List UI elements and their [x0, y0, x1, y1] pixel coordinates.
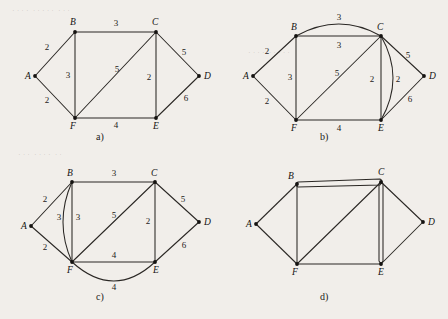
vertex-label-E: E [152, 121, 159, 131]
node-dot-B [294, 34, 298, 38]
weight-C-F: 5 [335, 68, 340, 78]
node-dot-E [379, 262, 383, 266]
vertex-label-C: C [151, 168, 158, 178]
panel-d: A B C D E F [224, 160, 448, 319]
node-dot-E [154, 116, 158, 120]
weight-C-D: 5 [181, 194, 186, 204]
weight-A-B: 2 [45, 42, 50, 52]
weight-A-F: 2 [45, 95, 50, 105]
panel-b-graph: 2 2 3 3 3 5 5 2 2 6 4 A B C [224, 0, 448, 159]
edge-C-F [297, 182, 381, 264]
edge-D-E [155, 222, 199, 262]
node-dot-B [70, 180, 74, 184]
weight-F-E: 4 [112, 250, 117, 260]
weight-D-E: 6 [184, 93, 189, 103]
weight-B-F-arc: 3 [57, 212, 62, 222]
node-dot-F [294, 118, 298, 122]
weight-B-C: 3 [114, 18, 119, 28]
weight-D-E: 6 [182, 240, 187, 250]
panel-d-edges [256, 179, 423, 264]
edge-D-E [156, 76, 199, 118]
edge-C-E-double-loop [379, 182, 383, 263]
weight-B-F: 3 [76, 212, 81, 222]
node-dot-C [154, 30, 158, 34]
panel-a-graph: 2 2 3 3 5 5 2 6 4 A B C D E [0, 0, 224, 159]
weight-C-E-arc: 2 [396, 74, 401, 84]
edge-C-F [75, 32, 156, 118]
edge-C-D [381, 36, 424, 76]
weight-B-C: 3 [112, 168, 117, 178]
figure-graph-variants: · · · · · · · · · · · · · · · · · · · · … [0, 0, 448, 319]
edge-D-E [381, 76, 424, 120]
node-dot-D [197, 220, 201, 224]
panel-a: 2 2 3 3 5 5 2 6 4 A B C D E [0, 0, 224, 159]
weight-C-E: 2 [146, 216, 151, 226]
weight-A-B: 2 [265, 46, 270, 56]
edge-A-F [253, 76, 296, 120]
edge-A-F [35, 76, 75, 118]
weight-A-F: 2 [43, 242, 48, 252]
panel-b-weights: 2 2 3 3 3 5 5 2 2 6 4 [265, 12, 413, 133]
node-dot-D [197, 74, 201, 78]
node-dot-A [33, 74, 37, 78]
vertex-label-D: D [428, 71, 436, 81]
vertex-label-A: A [20, 221, 27, 231]
weight-D-E: 6 [408, 94, 413, 104]
panel-c: 2 2 3 3 3 5 5 2 6 4 4 A B C [0, 160, 224, 319]
vertex-label-C: C [378, 167, 385, 177]
edge-A-B [253, 36, 296, 76]
node-dot-C [379, 180, 383, 184]
node-dot-A [29, 224, 33, 228]
node-dot-A [251, 74, 255, 78]
panel-a-edges [35, 32, 199, 118]
vertex-label-B: B [67, 168, 73, 178]
edge-C-D [155, 182, 199, 222]
vertex-label-A: A [242, 71, 249, 81]
node-dot-A [254, 222, 258, 226]
weight-C-F: 5 [112, 210, 117, 220]
vertex-label-C: C [377, 22, 384, 32]
weight-C-E: 2 [370, 74, 375, 84]
panel-caption-b: b) [320, 131, 328, 142]
node-dot-C [153, 180, 157, 184]
vertex-label-E: E [152, 265, 159, 275]
node-dot-D [422, 74, 426, 78]
edge-F-E-arc [72, 262, 155, 281]
weight-A-B: 2 [43, 194, 48, 204]
edge-C-D [381, 182, 423, 222]
node-dot-E [153, 260, 157, 264]
vertex-label-D: D [427, 217, 435, 227]
node-dot-B [73, 30, 77, 34]
weight-B-C: 3 [337, 40, 342, 50]
edge-B-C-arc [296, 24, 381, 36]
weight-F-E: 4 [114, 120, 119, 130]
node-dot-E [379, 118, 383, 122]
node-dot-F [70, 260, 74, 264]
vertex-label-E: E [377, 123, 384, 133]
node-dot-F [295, 262, 299, 266]
weight-C-D: 5 [182, 47, 187, 57]
edge-A-B [256, 184, 297, 224]
vertex-label-B: B [288, 171, 294, 181]
vertex-label-A: A [245, 219, 252, 229]
edge-B-F-arc [63, 182, 72, 262]
panel-caption-c: c) [96, 291, 104, 302]
panel-caption-a: a) [96, 131, 104, 142]
edge-D-E [381, 222, 423, 264]
weight-F-E: 4 [337, 123, 342, 133]
edge-A-F [256, 224, 297, 264]
panel-c-edges [31, 182, 199, 281]
vertex-label-E: E [377, 267, 384, 277]
edge-A-B [31, 182, 72, 226]
panel-b: 2 2 3 3 3 5 5 2 2 6 4 A B C [224, 0, 448, 159]
node-dot-F [73, 116, 77, 120]
edge-C-D [156, 32, 199, 76]
edge-B-C-double-loop [296, 179, 382, 187]
vertex-label-B: B [291, 22, 297, 32]
vertex-label-F: F [291, 267, 298, 277]
node-dot-B [295, 182, 299, 186]
panel-c-graph: 2 2 3 3 3 5 5 2 6 4 4 A B C [0, 160, 224, 319]
vertex-label-C: C [152, 17, 159, 27]
weight-C-F: 5 [115, 64, 120, 74]
vertex-label-F: F [290, 123, 297, 133]
